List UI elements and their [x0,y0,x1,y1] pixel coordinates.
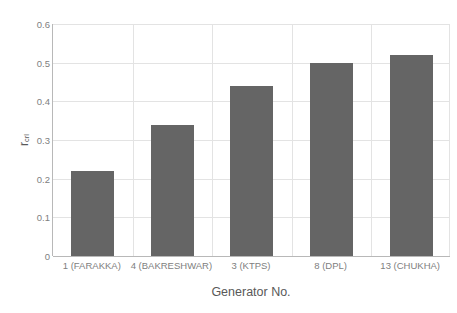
bar-slot [292,24,372,256]
x-axis-tick-label: 4 (BAKRESHWAR) [131,260,212,271]
y-axis-tick-label: 0 [18,251,50,262]
bar[interactable] [230,86,273,256]
bar-slot [371,24,451,256]
y-axis-tick-label: 0.6 [18,19,50,30]
y-axis-tick-label: 0.5 [18,57,50,68]
bar-chart: rcrl 00.10.20.30.40.50.6 1 (FARAKKA)4 (B… [0,0,457,313]
x-axis-title: Generator No. [52,285,450,299]
bar-slot [133,24,213,256]
x-axis-tick-label: 8 (DPL) [314,260,347,271]
y-axis-tick-label: 0.2 [18,173,50,184]
y-axis-tick-labels: 00.10.20.30.40.50.6 [18,0,50,313]
bar[interactable] [310,63,353,256]
bars-layer [53,24,450,256]
y-axis-tick-label: 0.1 [18,212,50,223]
bar-slot [53,24,133,256]
axis-baseline [53,256,450,257]
y-axis-tick-label: 0.4 [18,96,50,107]
bar[interactable] [151,125,194,256]
bar[interactable] [390,55,433,256]
x-axis-tick-label: 1 (FARAKKA) [63,260,121,271]
bar[interactable] [71,171,114,256]
y-axis-tick-label: 0.3 [18,135,50,146]
bar-slot [212,24,292,256]
x-axis-tick-label: 3 (KTPS) [231,260,270,271]
plot-area [52,24,450,256]
x-axis-tick-label: 13 (CHUKHA) [380,260,440,271]
x-axis-tick-labels: 1 (FARAKKA)4 (BAKRESHWAR)3 (KTPS)8 (DPL)… [52,260,450,276]
